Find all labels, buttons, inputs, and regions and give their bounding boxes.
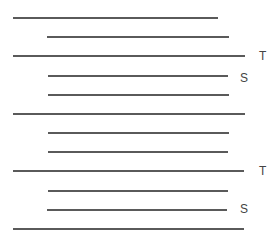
- label-s: S: [240, 203, 248, 215]
- label-t: T: [259, 50, 266, 62]
- label-s: S: [240, 72, 248, 84]
- short-line: [47, 36, 229, 38]
- long-line: [13, 55, 245, 57]
- long-line: [13, 113, 245, 115]
- long-line: [13, 170, 244, 172]
- short-line: [48, 151, 228, 153]
- long-line: [13, 17, 218, 19]
- short-line: [48, 75, 228, 77]
- label-t: T: [259, 165, 266, 177]
- short-line: [48, 94, 229, 96]
- short-line: [48, 190, 228, 192]
- short-line: [48, 132, 229, 134]
- short-line: [47, 209, 227, 211]
- long-line: [13, 228, 244, 230]
